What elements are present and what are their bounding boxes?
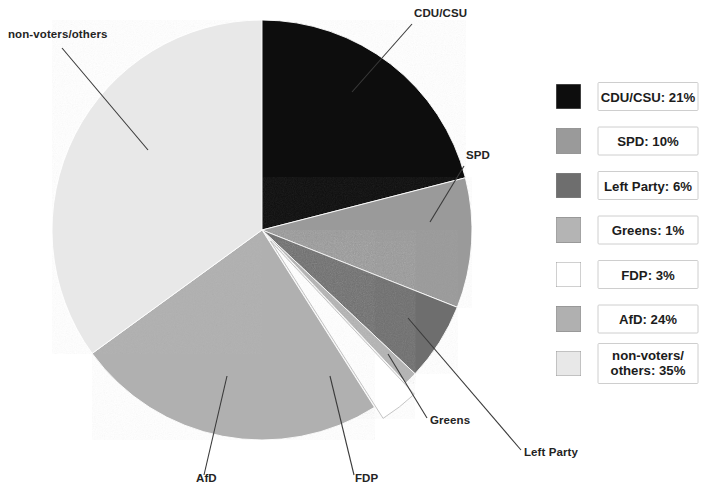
legend-label-cdu-csu: CDU/CSU: 21% <box>601 90 696 105</box>
pie-label-spd: SPD <box>466 149 490 161</box>
legend-label-non-voters-others: non-voters/ <box>612 348 684 363</box>
pie-label-cdu-csu: CDU/CSU <box>414 7 467 19</box>
legend-label-non-voters-others-line2: others: 35% <box>611 363 686 378</box>
pie-slices-group <box>52 20 472 440</box>
legend-label-fdp: FDP: 3% <box>621 268 675 283</box>
pie-chart-figure: CDU/CSUSPDLeft PartyGreensFDPAfDnon-vote… <box>0 0 702 491</box>
legend-swatch-left-party <box>556 173 581 198</box>
pie-label-afd: AfD <box>196 472 217 484</box>
legend-swatch-greens <box>556 218 581 243</box>
legend-label-spd: SPD: 10% <box>617 134 679 149</box>
chart-canvas: CDU/CSUSPDLeft PartyGreensFDPAfDnon-vote… <box>0 0 702 491</box>
legend-swatch-fdp <box>556 262 581 287</box>
legend-swatch-cdu-csu <box>556 84 581 109</box>
legend-label-greens: Greens: 1% <box>612 223 685 238</box>
pie-label-greens: Greens <box>430 414 470 426</box>
legend-swatch-spd <box>556 129 581 154</box>
pie-label-non-voters-others: non-voters/others <box>8 28 107 40</box>
pie-label-left-party: Left Party <box>524 446 579 458</box>
pie-label-fdp: FDP <box>355 472 379 484</box>
legend-swatch-non-voters-others <box>556 351 581 376</box>
legend-swatch-afd <box>556 307 581 332</box>
legend-label-left-party: Left Party: 6% <box>604 179 692 194</box>
legend-label-afd: AfD: 24% <box>619 312 677 327</box>
